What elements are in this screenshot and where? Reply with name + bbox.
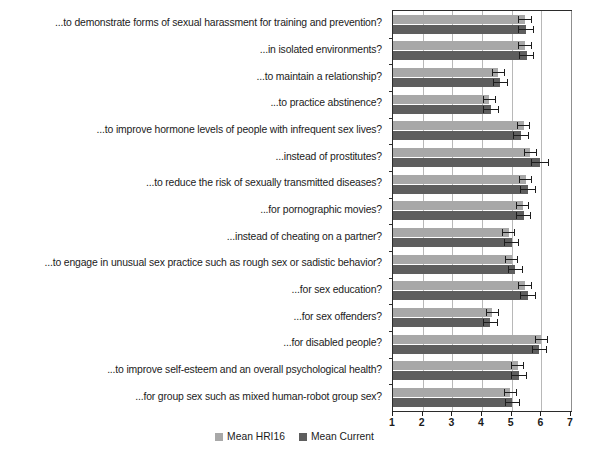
legend-label: Mean HRI16 <box>227 431 285 442</box>
legend-swatch <box>299 433 307 441</box>
error-bar <box>516 201 529 210</box>
error-bar <box>508 265 523 274</box>
x-axis-tick-label: 3 <box>448 416 454 428</box>
bar-mean-hri16 <box>393 255 512 264</box>
bar-mean-hri16 <box>393 175 526 184</box>
category-label: ...instead of cheating on a partner? <box>0 231 386 243</box>
bar-group <box>393 224 571 251</box>
category-label: ...in isolated environments? <box>0 44 386 56</box>
bar-group <box>393 304 571 331</box>
category-label: ...to demonstrate forms of sexual harass… <box>0 17 386 29</box>
x-axis-tick-label: 2 <box>419 416 425 428</box>
y-axis-tick <box>389 358 393 359</box>
y-axis-tick <box>389 171 393 172</box>
error-bar <box>524 148 537 157</box>
bar-mean-hri16 <box>393 41 525 50</box>
bar-group <box>393 64 571 91</box>
bar-mean-current <box>393 25 526 34</box>
bar-mean-hri16 <box>393 281 525 290</box>
error-bar <box>504 238 519 247</box>
category-label: ...to reduce the risk of sexually transm… <box>0 177 386 189</box>
bar-group <box>393 358 571 385</box>
category-label: ...to engage in unusual sex practice suc… <box>0 257 386 269</box>
bar-mean-current <box>393 185 528 194</box>
y-axis-tick <box>389 304 393 305</box>
bar-mean-current <box>393 238 512 247</box>
y-axis-tick <box>389 331 393 332</box>
error-bar <box>511 361 524 370</box>
bar-mean-hri16 <box>393 15 525 24</box>
legend-item: Mean HRI16 <box>215 431 285 442</box>
chart-legend: Mean HRI16Mean Current <box>0 431 589 442</box>
bar-mean-current <box>393 345 539 354</box>
error-bar <box>511 371 526 380</box>
error-bar <box>518 15 531 24</box>
y-axis-tick <box>389 38 393 39</box>
bar-group <box>393 91 571 118</box>
error-bar <box>483 95 496 104</box>
bar-mean-current <box>393 51 527 60</box>
bar-group <box>393 251 571 278</box>
bar-mean-hri16 <box>393 95 489 104</box>
bar-mean-hri16 <box>393 68 498 77</box>
y-axis-tick <box>389 198 393 199</box>
bar-mean-current <box>393 265 515 274</box>
y-axis-tick <box>389 64 393 65</box>
y-axis-tick <box>389 278 393 279</box>
category-label: ...to improve hormone levels of people w… <box>0 124 386 136</box>
bar-mean-current <box>393 371 519 380</box>
x-axis-tick-label: 6 <box>537 416 543 428</box>
x-axis-tick-label: 1 <box>389 416 395 428</box>
bar-mean-hri16 <box>393 308 492 317</box>
bar-mean-current <box>393 131 521 140</box>
category-labels: ...to demonstrate forms of sexual harass… <box>0 10 386 410</box>
bar-mean-current <box>393 105 491 114</box>
error-bar <box>516 211 531 220</box>
error-bar <box>531 158 549 167</box>
gridline-7 <box>571 11 572 411</box>
error-bar <box>505 398 520 407</box>
error-bar <box>518 25 533 34</box>
bar-group <box>393 38 571 65</box>
error-bar <box>492 68 505 77</box>
bar-mean-current <box>393 291 528 300</box>
legend-label: Mean Current <box>311 431 374 442</box>
bar-mean-current <box>393 158 540 167</box>
error-bar <box>502 228 515 237</box>
category-label: ...for disabled people? <box>0 337 386 349</box>
error-bar <box>519 175 532 184</box>
bar-mean-hri16 <box>393 335 541 344</box>
y-axis-tick <box>389 118 393 119</box>
x-axis-tick-label: 7 <box>567 416 573 428</box>
error-bar <box>505 255 518 264</box>
bar-mean-current <box>393 398 512 407</box>
bar-chart: ...to demonstrate forms of sexual harass… <box>0 0 589 456</box>
bar-mean-current <box>393 78 500 87</box>
bar-group <box>393 118 571 145</box>
error-bar <box>520 185 535 194</box>
y-axis-tick <box>389 384 393 385</box>
error-bar <box>486 308 499 317</box>
y-axis-tick <box>389 224 393 225</box>
plot-area <box>392 10 572 412</box>
y-axis-tick <box>389 251 393 252</box>
category-label: ...instead of prostitutes? <box>0 151 386 163</box>
legend-swatch <box>215 433 223 441</box>
bar-mean-hri16 <box>393 148 530 157</box>
bar-group <box>393 144 571 171</box>
bar-group <box>393 278 571 305</box>
y-axis-tick <box>389 144 393 145</box>
error-bar <box>518 281 531 290</box>
bar-group <box>393 171 571 198</box>
category-label: ...for pornographic movies? <box>0 204 386 216</box>
x-axis-tick-label: 4 <box>478 416 484 428</box>
bar-group <box>393 11 571 38</box>
error-bar <box>535 335 548 344</box>
category-label: ...for sex education? <box>0 284 386 296</box>
error-bar <box>513 131 528 140</box>
error-bar <box>518 41 531 50</box>
x-axis-tick-label: 5 <box>508 416 514 428</box>
bar-mean-hri16 <box>393 361 518 370</box>
error-bar <box>520 291 535 300</box>
y-axis-tick <box>389 91 393 92</box>
